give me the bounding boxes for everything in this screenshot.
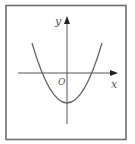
parabola-diagram: y x O xyxy=(0,0,135,144)
origin-label: O xyxy=(58,77,66,87)
y-axis-label: y xyxy=(54,15,62,28)
x-axis-label: x xyxy=(111,78,118,91)
